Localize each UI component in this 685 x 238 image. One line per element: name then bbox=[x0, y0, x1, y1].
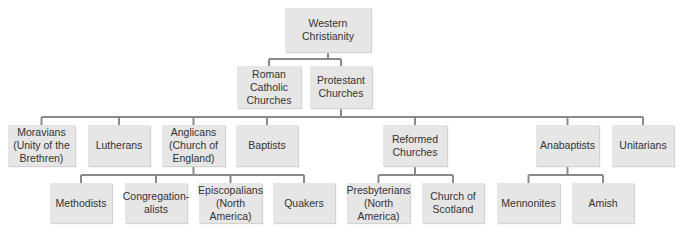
node-moravians: Moravians (Unity of the Brethren) bbox=[8, 125, 75, 166]
node-label: Protestant Churches bbox=[317, 74, 365, 100]
node-label: Amish bbox=[588, 197, 617, 210]
node-label: Moravians (Unity of the Brethren) bbox=[13, 126, 70, 165]
node-label: Reformed Churches bbox=[392, 133, 438, 159]
node-label: Anabaptists bbox=[540, 139, 595, 152]
node-quakers: Quakers bbox=[273, 183, 335, 223]
node-label: Congregation- alists bbox=[123, 190, 190, 216]
node-label: Unitarians bbox=[619, 139, 666, 152]
node-protestant: Protestant Churches bbox=[310, 66, 372, 108]
node-label: Quakers bbox=[284, 197, 324, 210]
node-episcopalians: Episcopalians (North America) bbox=[199, 183, 262, 223]
node-mennonites: Mennonites bbox=[497, 183, 560, 223]
node-unitarians: Unitarians bbox=[612, 125, 674, 166]
node-label: Episcopalians (North America) bbox=[198, 184, 263, 223]
node-label: Church of Scotland bbox=[430, 190, 476, 216]
node-label: Mennonites bbox=[501, 197, 555, 210]
node-label: Roman Catholic Churches bbox=[239, 68, 299, 107]
node-presbyterians: Presbyterians (North America) bbox=[347, 183, 410, 223]
node-label: Presbyterians (North America) bbox=[346, 184, 410, 223]
node-anglicans: Anglicans (Church of England) bbox=[162, 125, 225, 166]
node-church-of-scotland: Church of Scotland bbox=[422, 183, 484, 223]
node-anabaptists: Anabaptists bbox=[536, 125, 599, 166]
node-methodists: Methodists bbox=[50, 183, 112, 223]
node-congregationalists: Congregation- alists bbox=[125, 183, 187, 223]
node-label: Lutherans bbox=[96, 139, 143, 152]
node-western: Western Christianity bbox=[285, 8, 371, 52]
node-label: Anglicans (Church of England) bbox=[169, 126, 218, 165]
node-baptists: Baptists bbox=[236, 125, 298, 166]
node-amish: Amish bbox=[572, 183, 634, 223]
node-label: Baptists bbox=[248, 139, 285, 152]
node-lutherans: Lutherans bbox=[88, 125, 150, 166]
node-label: Methodists bbox=[56, 197, 107, 210]
node-label: Western Christianity bbox=[302, 17, 354, 43]
node-roman: Roman Catholic Churches bbox=[237, 66, 301, 108]
denomination-tree: Western ChristianityRoman Catholic Churc… bbox=[0, 0, 685, 238]
node-reformed: Reformed Churches bbox=[383, 125, 447, 166]
